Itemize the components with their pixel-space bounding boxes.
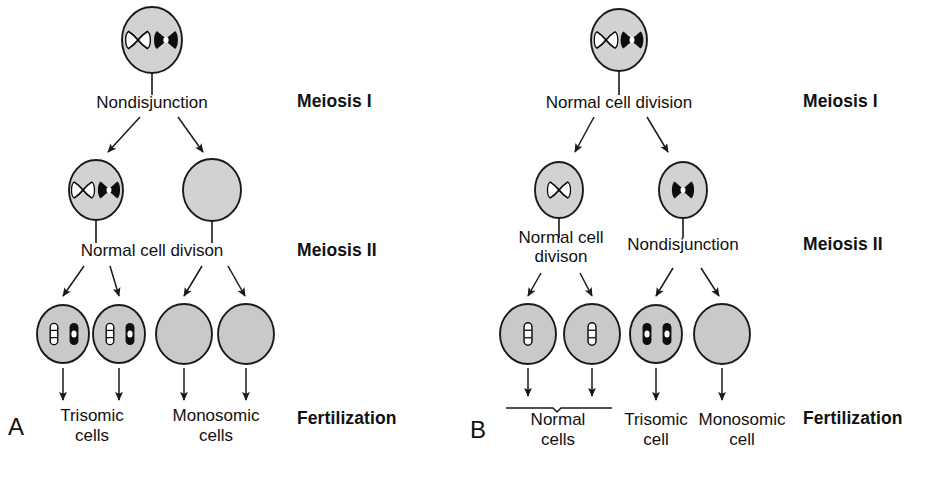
panel-a-outcome-trisomic-line1: Trisomic (60, 407, 124, 424)
panel-a-gamete-4[interactable] (218, 304, 274, 364)
panel-a-stage-label-fertilization: Fertilization (297, 410, 397, 428)
panel-a-meiosis-i-cell-left[interactable] (69, 160, 123, 220)
panel-b-outcome-monosomic-line1: Monosomic (699, 411, 786, 428)
panel-b-gamete-2[interactable] (564, 304, 620, 364)
panel-b-gamete-3[interactable] (630, 305, 682, 363)
chromosome-black-rod (643, 323, 652, 345)
panel-b-meiosis-ii-process-left-line1: Normal cell (518, 229, 603, 246)
panel-a-stage-label-meiosis-i: Meiosis I (297, 93, 372, 111)
panel-a-gamete-3[interactable] (156, 304, 212, 364)
chromosome-white-rod (106, 323, 114, 344)
panel-b-meiosis-i-cell-right[interactable] (659, 162, 707, 218)
panel-b-outcome-normal-line1: Normal (531, 411, 586, 428)
panel-a-outcome-monosomic-line2: cells (199, 427, 233, 444)
panel-a-meiosis-i-cell-right[interactable] (183, 159, 241, 221)
panel-a-parent-cell[interactable] (122, 7, 182, 73)
panel-a-meiosis-ii-process-label: Normal cell divison (81, 242, 224, 259)
panel-a-letter: A (8, 415, 24, 439)
panel-a-gamete-2[interactable] (93, 305, 145, 363)
panel-b-stage-label-fertilization: Fertilization (803, 410, 903, 428)
panel-b-outcome-trisomic-line1: Trisomic (624, 411, 688, 428)
panel-b-letter: B (470, 418, 486, 442)
panel-a-arrow-mii-4 (228, 266, 245, 296)
panel-b-arrow-mi-right (647, 117, 668, 152)
panel-b-graphics (500, 9, 750, 412)
panel-b-outcome-trisomic-line2: cell (643, 431, 669, 448)
panel-b-parent-cell[interactable] (591, 9, 647, 71)
panel-b-outcome-monosomic-line2: cell (729, 431, 755, 448)
panel-b-outcome-normal-line2: cells (541, 431, 575, 448)
panel-a-meiosis-i-process-label: Nondisjunction (96, 94, 208, 111)
panel-b-arrow-mii-2 (580, 273, 592, 296)
chromosome-white-rod (50, 323, 58, 344)
panel-b-stage-label-meiosis-ii: Meiosis II (803, 236, 883, 254)
panel-a-arrow-mii-2 (110, 266, 119, 296)
panel-b-arrow-mii-1 (528, 273, 541, 296)
panel-b-meiosis-i-process-label: Normal cell division (546, 94, 692, 111)
panel-b-stage-label-meiosis-i: Meiosis I (803, 93, 878, 111)
panel-a-gamete-1[interactable] (37, 305, 89, 363)
panel-a-arrow-mi-left (108, 117, 140, 152)
panel-b-arrow-mii-3 (656, 268, 673, 296)
panel-b-meiosis-i-cell-left[interactable] (535, 162, 583, 218)
panel-a-arrow-mii-3 (184, 266, 202, 296)
panel-a-outcome-trisomic-line2: cells (75, 427, 109, 444)
panel-b-arrow-mii-4 (701, 268, 719, 296)
chromosome-black-rod (663, 323, 672, 345)
panel-a-arrow-mii-1 (63, 266, 84, 296)
panel-b-gamete-4[interactable] (694, 304, 750, 364)
chromosome-white-rod (524, 323, 532, 345)
panel-a-stage-label-meiosis-ii: Meiosis II (297, 242, 377, 260)
chromosome-black-rod (126, 323, 135, 345)
chromosome-black-rod (70, 323, 79, 345)
panel-b-meiosis-ii-process-right-label: Nondisjunction (627, 236, 739, 253)
panel-b-meiosis-ii-process-left-line2: divison (535, 248, 588, 265)
chromosome-white-rod (588, 323, 596, 345)
panel-a-graphics (37, 7, 274, 400)
panel-a-arrow-mi-right (178, 117, 203, 152)
meiosis-nondisjunction-figure: Nondisjunction Normal cell divison Triso… (0, 0, 941, 500)
panel-a-outcome-monosomic-line1: Monosomic (173, 407, 260, 424)
panel-b-arrow-mi-left (575, 117, 594, 152)
panel-b-gamete-1[interactable] (500, 304, 556, 364)
